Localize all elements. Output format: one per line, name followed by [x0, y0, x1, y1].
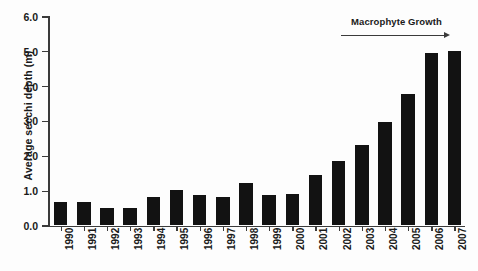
x-tick-1997 [223, 226, 224, 231]
y-tick-label: 0.0 [23, 221, 38, 232]
bar-1999 [262, 195, 276, 225]
y-tick-label: 2.0 [23, 151, 38, 162]
x-axis-label-2001: 2001 [319, 228, 329, 250]
y-tick-label: 5.0 [23, 47, 38, 58]
x-axis-label-2004: 2004 [389, 228, 399, 250]
x-tick-1992 [107, 226, 108, 231]
macrophyte-growth-label: Macrophyte Growth [351, 16, 442, 27]
bar-2000 [286, 194, 300, 225]
x-axis-label-1992: 1992 [111, 228, 121, 250]
x-tick-1990 [61, 226, 62, 231]
x-tick-2004 [385, 226, 386, 231]
x-axis-label-1999: 1999 [273, 228, 283, 250]
bar-2006 [425, 53, 439, 225]
x-tick-1991 [84, 226, 85, 231]
bar-1990 [54, 202, 68, 225]
x-axis-label-1991: 1991 [88, 228, 98, 250]
x-axis-label-2007: 2007 [458, 228, 468, 250]
y-tick-1.0: 1.0 [42, 191, 48, 192]
bar-2004 [378, 122, 392, 225]
x-tick-1998 [246, 226, 247, 231]
y-tick-3.0: 3.0 [42, 121, 48, 122]
x-tick-2006 [431, 226, 432, 231]
x-axis-label-2003: 2003 [366, 228, 376, 250]
bar-1992 [100, 208, 114, 225]
x-tick-1993 [130, 226, 131, 231]
bar-2001 [309, 175, 323, 226]
x-axis-label-1993: 1993 [134, 228, 144, 250]
x-axis-label-2006: 2006 [435, 228, 445, 250]
bar-1993 [123, 208, 137, 225]
y-tick-0.0: 0.0 [42, 225, 48, 226]
x-tick-2002 [339, 226, 340, 231]
macrophyte-growth-arrow-head-icon [444, 32, 450, 38]
x-axis-label-1995: 1995 [180, 228, 190, 250]
x-axis-label-2002: 2002 [343, 228, 353, 250]
y-tick-label: 1.0 [23, 186, 38, 197]
macrophyte-growth-annotation: Macrophyte Growth [339, 16, 455, 46]
x-tick-1996 [200, 226, 201, 231]
bar-2003 [355, 145, 369, 225]
y-tick-label: 3.0 [23, 116, 38, 127]
plot-area: 0.01.02.03.04.05.06.0 199019911992199319… [48, 16, 465, 226]
x-tick-2007 [454, 226, 455, 231]
x-axis-label-2000: 2000 [296, 228, 306, 250]
bar-2002 [332, 161, 346, 225]
bar-1995 [170, 190, 184, 225]
x-axis-label-1994: 1994 [157, 228, 167, 250]
x-axis-label-1996: 1996 [204, 228, 214, 250]
x-tick-2005 [408, 226, 409, 231]
x-tick-2001 [315, 226, 316, 231]
x-tick-2000 [292, 226, 293, 231]
x-axis-label-1997: 1997 [227, 228, 237, 250]
bar-2005 [401, 94, 415, 225]
x-axis-label-2005: 2005 [412, 228, 422, 250]
y-tick-label: 6.0 [23, 12, 38, 23]
x-tick-1995 [176, 226, 177, 231]
bar-2007 [448, 51, 462, 225]
secchi-depth-bar-chart: Average secchi depth (m) 0.01.02.03.04.0… [0, 0, 478, 271]
macrophyte-growth-arrow-line [341, 35, 449, 36]
x-tick-2003 [362, 226, 363, 231]
bar-1998 [239, 183, 253, 225]
x-axis-label-1990: 1990 [65, 228, 75, 250]
bar-1994 [147, 197, 161, 225]
y-tick-2.0: 2.0 [42, 156, 48, 157]
bar-1996 [193, 195, 207, 225]
x-tick-1994 [153, 226, 154, 231]
bar-1997 [216, 197, 230, 225]
y-tick-4.0: 4.0 [42, 86, 48, 87]
y-tick-label: 4.0 [23, 81, 38, 92]
bar-1991 [77, 202, 91, 225]
y-tick-6.0: 6.0 [42, 16, 48, 17]
y-tick-5.0: 5.0 [42, 51, 48, 52]
x-axis-label-1998: 1998 [250, 228, 260, 250]
x-tick-1999 [269, 226, 270, 231]
y-axis-line [48, 16, 50, 227]
